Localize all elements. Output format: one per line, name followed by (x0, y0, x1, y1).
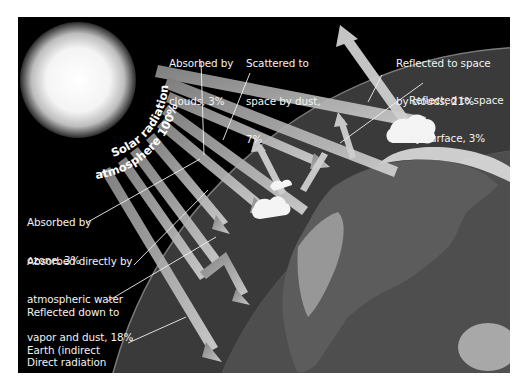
label-line: Direct radiation (27, 356, 131, 369)
label-reflected-by-surface: Reflected to space by surface, 3% (409, 69, 504, 170)
label-line: Reflected to space (409, 94, 504, 107)
label-line: space by dust, (246, 95, 320, 108)
label-line: Scattered to (246, 57, 320, 70)
label-line: 7% (246, 133, 320, 146)
label-line: Absorbed by (169, 57, 233, 70)
label-line: Absorbed directly by (27, 255, 133, 268)
label-line: clouds, 3% (169, 95, 233, 108)
label-scattered-by-dust: Scattered to space by dust, 7% (246, 32, 320, 171)
label-line: Reflected to space (396, 57, 491, 70)
solar-radiation-diagram: Solar radiation atmosphere 100% Absorbed… (18, 17, 510, 373)
label-absorbed-by-clouds: Absorbed by clouds, 3% (169, 32, 233, 133)
label-line: by surface, 3% (409, 132, 504, 145)
label-line: Absorbed by (27, 216, 91, 229)
label-line: Reflected down to (27, 306, 119, 319)
label-direct-radiation: Direct radiation reaching Earth, 25% (27, 331, 131, 373)
